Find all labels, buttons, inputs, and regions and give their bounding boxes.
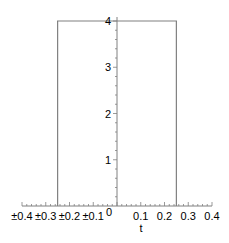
x-tick-label: ±0.3 [35,210,56,222]
x-tick-label: 0.4 [204,210,219,222]
x-axis-label: t [139,222,142,234]
x-tick-label: ±0.4 [11,210,32,222]
y-tick-label: 4 [105,15,111,27]
pulse-chart: ±0.4±0.3±0.2±0.100.10.20.30.4 1234 t [0,0,229,243]
x-tick-label: 0 [106,206,112,218]
axes [22,17,212,206]
x-tick-label: 0.1 [133,210,148,222]
x-tick-label: 0.3 [181,210,196,222]
y-tick-label: 3 [105,61,111,73]
x-tick-label: ±0.2 [59,210,80,222]
y-tick-label: 1 [105,154,111,166]
x-tick-label: 0.2 [157,210,172,222]
x-tick-label: ±0.1 [83,210,104,222]
y-tick-label: 2 [105,108,111,120]
y-axis-ticks: 1234 [105,15,117,197]
x-axis-ticks: ±0.4±0.3±0.2±0.100.10.20.30.4 [11,202,219,222]
